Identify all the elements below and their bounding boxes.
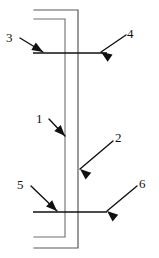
callout-4-leader xyxy=(101,35,126,62)
diagram-canvas: 123456 xyxy=(0,0,159,258)
arrow-head-icon xyxy=(80,169,91,179)
arrow-head-icon xyxy=(31,43,43,52)
callout-3-leader xyxy=(20,38,43,52)
callout-1-label: 1 xyxy=(36,112,43,125)
leader-line xyxy=(80,141,113,169)
callout-6-leader xyxy=(107,186,137,221)
callout-5-leader xyxy=(31,186,57,211)
callout-1-leader xyxy=(49,119,65,136)
flange-lines xyxy=(33,53,107,212)
callout-3-label: 3 xyxy=(6,31,13,44)
callout-2-leader xyxy=(80,141,113,179)
leader-line xyxy=(107,186,137,211)
leader-line xyxy=(101,35,126,52)
callout-2-label: 2 xyxy=(115,131,122,144)
callout-6-label: 6 xyxy=(139,177,146,190)
callout-5-label: 5 xyxy=(17,178,24,191)
arrow-head-icon xyxy=(107,211,118,221)
arrow-head-icon xyxy=(101,52,113,62)
callout-4-label: 4 xyxy=(127,27,134,40)
profile-drawing xyxy=(0,0,159,258)
